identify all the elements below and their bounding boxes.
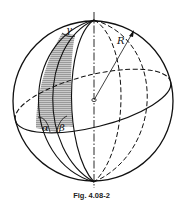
shaded-spherical-triangle [36,33,75,132]
alpha-label: α [42,122,49,133]
gamma-label: γ [66,24,72,35]
radius-line [94,32,133,100]
radius-label: R [116,35,125,46]
meridian-shaded-right-edge [72,20,95,182]
figure-caption: Fig. 4.08-2 [0,191,183,200]
beta-label: β [58,122,65,133]
spherical-lune-diagram: R γ α β [0,0,183,190]
